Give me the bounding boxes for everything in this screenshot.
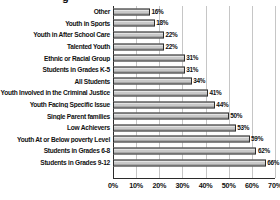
category-label: Youth At or Below poverty Level [0,136,113,143]
bar-row: Youth Facing Specific Issue44% [0,99,280,111]
bar-cell: 50% [113,110,280,122]
bar [113,147,256,154]
category-label: Youth Involved in the Criminal Justice [0,89,113,96]
bar-row: Low Achievers53% [0,122,280,134]
bar-value-label: 50% [229,113,243,120]
bar-value-label: 59% [250,136,264,143]
bar-chart: g Other16%Youth in Sports18%Youth in Aft… [0,0,280,200]
bar-cell: 34% [113,76,280,88]
bar-cell: 62% [113,145,280,157]
x-axis-ticklabels: 0%10%20%30%40%50%60%70% [113,181,275,195]
plot-area: Other16%Youth in Sports18%Youth in After… [0,6,280,200]
bar [113,66,185,73]
bar-row: Students in Grades 6-862% [0,145,280,157]
bar [113,8,150,15]
bar-row: Youth Involved in the Criminal Justice41… [0,87,280,99]
category-label: Low Achievers [0,124,113,131]
bar-row: Single Parent families50% [0,110,280,122]
bar-cell: 44% [113,99,280,111]
bar-value-label: 53% [236,124,250,131]
category-label: All Students [0,78,113,85]
x-tick-label: 20% [152,181,166,190]
x-tick-label: 70% [268,181,280,190]
bar [113,113,229,120]
bar [113,55,185,62]
category-label: Youth in After School Care [0,31,113,38]
bar-row: Youth At or Below poverty Level59% [0,134,280,146]
bar-cell: 59% [113,134,280,146]
category-label: Ethnic or Racial Group [0,55,113,62]
category-label: Youth in Sports [0,20,113,27]
bar [113,136,250,143]
x-tick-label: 40% [199,181,213,190]
bar-row: Youth in Sports18% [0,18,280,30]
bar [113,20,155,27]
bar-row: Talented Youth22% [0,41,280,53]
bar-cell: 22% [113,29,280,41]
bar-row: Youth in After School Care22% [0,29,280,41]
category-label: Talented Youth [0,43,113,50]
bar-value-label: 31% [185,66,199,73]
x-tick-label: 0% [108,181,118,190]
bar-value-label: 16% [150,8,164,15]
category-label: Other [0,8,113,15]
bar-value-label: 41% [208,89,222,96]
bar-value-label: 18% [155,20,169,27]
bar [113,43,164,50]
category-label: Students in Grades K-5 [0,66,113,73]
bar-cell: 31% [113,64,280,76]
bar-rows: Other16%Youth in Sports18%Youth in After… [0,6,280,178]
bar-value-label: 44% [215,101,229,108]
bar [113,101,215,108]
chart-title-fragment: g [62,0,182,3]
bar-value-label: 66% [266,159,280,166]
bar-cell: 16% [113,6,280,18]
bar-cell: 22% [113,41,280,53]
bar-value-label: 22% [164,31,178,38]
bar-value-label: 31% [185,55,199,62]
bar-row: Students in Grades 9-1266% [0,157,280,169]
category-label: Students in Grades 9-12 [0,159,113,166]
bar [113,89,208,96]
category-label: Students in Grades 6-8 [0,147,113,154]
bar [113,31,164,38]
x-tick-label: 60% [245,181,259,190]
x-tick-label: 50% [222,181,236,190]
bar-cell: 41% [113,87,280,99]
category-label: Single Parent families [0,113,113,120]
bar-value-label: 34% [192,78,206,85]
x-tick-label: 10% [129,181,143,190]
x-tick-label: 30% [176,181,190,190]
bar [113,159,266,166]
bar-value-label: 22% [164,43,178,50]
category-label: Youth Facing Specific Issue [0,101,113,108]
bar-cell: 18% [113,18,280,30]
bar-cell: 53% [113,122,280,134]
bar [113,78,192,85]
bar-value-label: 62% [256,147,270,154]
bar-row: All Students34% [0,76,280,88]
bar-cell: 66% [113,157,280,169]
bar-cell: 31% [113,52,280,64]
bar-row: Students in Grades K-531% [0,64,280,76]
bar-row: Other16% [0,6,280,18]
bar [113,124,236,131]
bar-row: Ethnic or Racial Group31% [0,52,280,64]
